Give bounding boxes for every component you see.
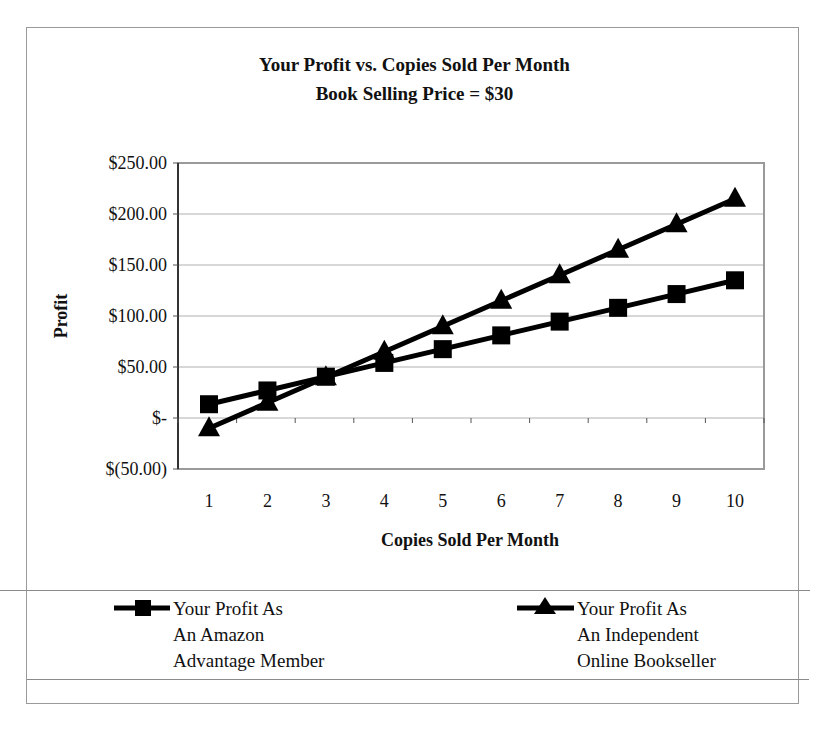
x-axis-label: Copies Sold Per Month [381, 530, 559, 550]
legend-bottom-divider [27, 679, 809, 680]
square-marker-icon [492, 326, 510, 344]
legend-top-divider [0, 590, 810, 591]
y-tick-label: $250.00 [109, 153, 168, 173]
square-marker-icon [551, 313, 569, 331]
x-tick-label: 4 [380, 491, 389, 511]
x-tick-label: 1 [205, 491, 214, 511]
square-marker-icon [726, 271, 744, 289]
legend-line: An Independent [577, 622, 716, 648]
square-marker-icon [668, 285, 686, 303]
y-tick-label: $- [152, 408, 167, 428]
series-line [209, 280, 735, 404]
y-axis-label: Profit [51, 294, 71, 339]
square-marker-icon [434, 340, 452, 358]
square-marker-icon [200, 395, 218, 413]
y-tick-label: $50.00 [118, 357, 168, 377]
x-tick-label: 5 [438, 491, 447, 511]
x-tick-label: 3 [321, 491, 330, 511]
x-tick-label: 9 [672, 491, 681, 511]
legend-line: Advantage Member [173, 648, 324, 674]
x-tick-label: 2 [263, 491, 272, 511]
y-tick-label: $(50.00) [106, 459, 168, 480]
y-tick-label: $100.00 [109, 306, 168, 326]
legend-line: Your Profit As [577, 596, 716, 622]
x-tick-label: 8 [614, 491, 623, 511]
legend-line: Online Bookseller [577, 648, 716, 674]
legend-line: Your Profit As [173, 596, 324, 622]
y-tick-label: $200.00 [109, 204, 168, 224]
legend-line: An Amazon [173, 622, 324, 648]
y-tick-label: $150.00 [109, 255, 168, 275]
square-marker-icon [609, 299, 627, 317]
series-line [209, 199, 735, 429]
x-tick-label: 7 [555, 491, 564, 511]
x-tick-label: 6 [497, 491, 506, 511]
triangle-marker-icon [724, 187, 746, 207]
x-tick-label: 10 [726, 491, 744, 511]
